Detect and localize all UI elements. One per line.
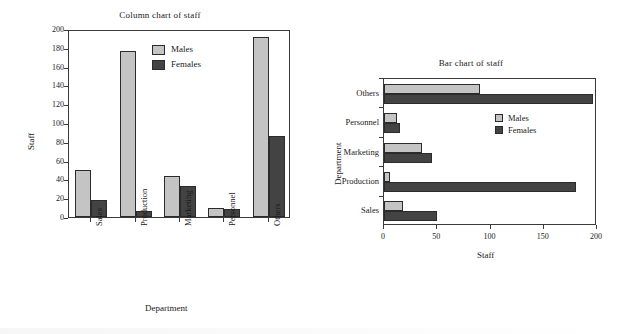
bar-chart-category-personnel: Personnel <box>320 117 379 127</box>
column-bar-others-males <box>253 37 269 217</box>
column-chart-title: Column chart of staff <box>0 10 320 20</box>
bar-chart-x-tick <box>383 225 384 229</box>
bar-chart-category-production: Production <box>320 176 379 186</box>
column-chart-y-tick-label: 80 <box>40 138 64 147</box>
bar-sales-males <box>384 201 403 211</box>
legend-item-females: Females <box>152 57 201 72</box>
legend-swatch-males-icon <box>152 45 165 55</box>
bar-chart-figure: Bar chart of staff Department SalesProdu… <box>320 0 622 334</box>
bar-chart-category-others: Others <box>320 88 379 98</box>
bar-personnel-females <box>384 123 400 133</box>
bar-chart-x-tick <box>543 225 544 229</box>
legend-swatch-females-icon <box>495 126 503 134</box>
column-chart-x-tick <box>135 218 136 222</box>
bar-chart-x-tick-label: 50 <box>422 232 450 241</box>
bar-chart-x-tick-label: 200 <box>582 232 610 241</box>
legend-item-males: Males <box>152 42 201 57</box>
column-chart-category-personnel: Personnel <box>227 192 237 226</box>
column-bar-sales-males <box>75 170 91 217</box>
column-chart-x-tick <box>179 218 180 222</box>
legend-label-females: Females <box>171 57 201 72</box>
column-chart-y-tick-label: 60 <box>40 157 64 166</box>
column-chart-category-marketing: Marketing <box>183 191 193 226</box>
column-chart-category-sales: Sales <box>94 208 104 226</box>
column-chart-y-tick-label: 140 <box>40 81 64 90</box>
column-chart-y-tick-label: 40 <box>40 175 64 184</box>
bar-others-females <box>384 94 593 104</box>
legend-label-males: Males <box>171 42 193 57</box>
column-chart-y-tick-label: 200 <box>40 25 64 34</box>
figure-page: { "colors": { "males": "#c4c4c4", "femal… <box>0 0 622 334</box>
bar-chart-title: Bar chart of staff <box>320 58 622 68</box>
bar-marketing-males <box>384 143 422 153</box>
bar-chart-x-tick <box>596 225 597 229</box>
bar-chart-x-tick <box>436 225 437 229</box>
column-chart-category-production: Production <box>139 189 149 226</box>
legend-swatch-females-icon <box>152 60 165 70</box>
column-bar-marketing-males <box>164 176 180 217</box>
column-bar-personnel-males <box>208 208 224 217</box>
bar-chart-category-marketing: Marketing <box>320 147 379 157</box>
bar-production-males <box>384 172 390 182</box>
scan-artifact <box>0 328 622 334</box>
column-chart-y-tick-label: 100 <box>40 119 64 128</box>
bar-chart-x-axis-label: Staff <box>477 250 494 260</box>
bar-sales-females <box>384 211 437 221</box>
column-chart-y-tick-label: 180 <box>40 44 64 53</box>
bar-chart-plot-area <box>383 78 596 225</box>
column-chart-y-tick-label: 160 <box>40 63 64 72</box>
bar-personnel-males <box>384 113 397 123</box>
bar-others-males <box>384 84 480 94</box>
column-chart-legend: Males Females <box>152 42 201 72</box>
bar-production-females <box>384 182 576 192</box>
bar-marketing-females <box>384 153 432 163</box>
column-chart-x-tick <box>268 218 269 222</box>
legend-item-females: Females <box>495 124 536 136</box>
bar-chart-x-tick <box>490 225 491 229</box>
column-chart-category-others: Others <box>272 203 282 226</box>
column-chart-y-tick-label: 120 <box>40 100 64 109</box>
bar-chart-category-sales: Sales <box>320 205 379 215</box>
column-chart-y-axis-label: Staff <box>26 133 36 150</box>
column-chart-y-tick <box>64 218 68 219</box>
column-chart-x-tick <box>223 218 224 222</box>
legend-item-males: Males <box>495 112 536 124</box>
bar-chart-x-tick-label: 0 <box>369 232 397 241</box>
bar-chart-x-tick-label: 150 <box>529 232 557 241</box>
column-chart-x-axis-label: Department <box>145 303 187 313</box>
legend-swatch-males-icon <box>495 114 503 122</box>
bar-chart-x-tick-label: 100 <box>476 232 504 241</box>
column-chart-y-tick-label: 0 <box>40 213 64 222</box>
bar-chart-legend: Males Females <box>495 112 536 136</box>
column-chart-figure: Column chart of staff Staff 020406080100… <box>0 0 320 334</box>
legend-label-males: Males <box>508 112 529 124</box>
column-bar-production-males <box>120 51 136 217</box>
column-chart-x-tick <box>90 218 91 222</box>
column-chart-y-tick-label: 20 <box>40 194 64 203</box>
legend-label-females: Females <box>508 124 536 136</box>
